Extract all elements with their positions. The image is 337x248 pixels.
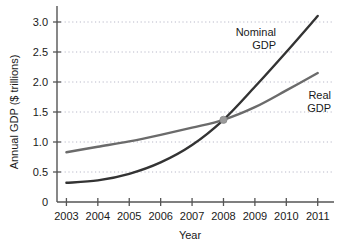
y-axis-title: Annual GDP ($ trillions) xyxy=(8,55,20,170)
y-axis-tick-label: 2.0 xyxy=(33,76,48,88)
y-axis-tick-label: 0.5 xyxy=(33,166,48,178)
x-axis-tick-label: 2005 xyxy=(117,210,141,222)
intersection-marker xyxy=(220,116,227,123)
x-axis-tick-label: 2008 xyxy=(211,210,235,222)
x-axis-title: Year xyxy=(179,229,202,241)
annotations-group xyxy=(220,116,227,123)
gdp-line-chart-figure: 00.51.01.52.02.53.0 20032004200520062007… xyxy=(0,0,337,248)
series-line-nominal-gdp xyxy=(66,16,317,183)
x-axis-tick-label: 2004 xyxy=(86,210,110,222)
series-label-nominal-gdp-line1: Nominal xyxy=(236,26,276,38)
x-axis-tick-label: 2007 xyxy=(180,210,204,222)
x-axis-tick-label: 2010 xyxy=(274,210,298,222)
y-axis-tick-labels: 00.51.01.52.02.53.0 xyxy=(33,16,48,208)
y-axis-tick-label: 0 xyxy=(42,196,48,208)
series-label-real-gdp-line2: GDP xyxy=(307,102,331,114)
y-axis-tick-label: 3.0 xyxy=(33,16,48,28)
y-axis-tick-label: 1.0 xyxy=(33,136,48,148)
x-axis-tick-labels: 200320042005200620072008200920102011 xyxy=(54,210,329,222)
chart-canvas: 00.51.01.52.02.53.0 20032004200520062007… xyxy=(0,0,337,248)
series-line-real-gdp xyxy=(66,73,317,152)
y-axis-tick-label: 2.5 xyxy=(33,46,48,58)
series-paths-group xyxy=(66,16,317,183)
x-axis-tick-label: 2006 xyxy=(148,210,172,222)
series-label-real-gdp-line1: Real xyxy=(308,89,331,101)
y-axis-tick-label: 1.5 xyxy=(33,106,48,118)
series-label-nominal-gdp-line2: GDP xyxy=(252,39,276,51)
x-axis-tick-label: 2009 xyxy=(243,210,267,222)
x-axis-tick-label: 2011 xyxy=(306,210,330,222)
x-axis-tick-label: 2003 xyxy=(54,210,78,222)
